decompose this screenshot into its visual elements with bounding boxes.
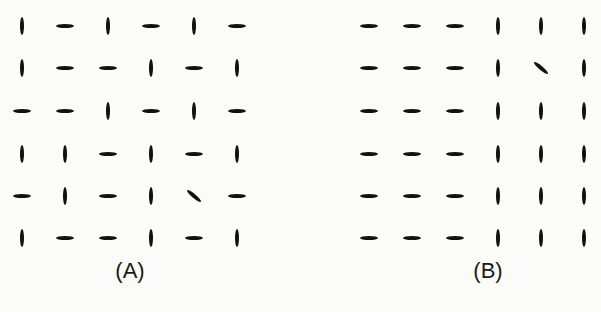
vertical-bar [496, 229, 500, 247]
horizontal-bar [99, 236, 117, 240]
vertical-bar [539, 229, 543, 247]
panel-b-label: (B) [458, 258, 518, 284]
horizontal-bar [99, 152, 117, 156]
vertical-bar [149, 229, 153, 247]
vertical-bar [582, 59, 586, 77]
vertical-bar [539, 187, 543, 205]
horizontal-bar [403, 236, 421, 240]
horizontal-bar [228, 109, 246, 113]
horizontal-bar [99, 194, 117, 198]
vertical-bar [20, 59, 24, 77]
vertical-bar [539, 145, 543, 163]
vertical-bar [496, 145, 500, 163]
vertical-bar [149, 145, 153, 163]
horizontal-bar [403, 66, 421, 70]
horizontal-bar [56, 236, 74, 240]
vertical-bar [539, 102, 543, 120]
vertical-bar [496, 102, 500, 120]
vertical-bar [20, 145, 24, 163]
vertical-bar [192, 17, 196, 35]
horizontal-bar [360, 236, 378, 240]
vertical-bar [106, 102, 110, 120]
horizontal-bar [185, 236, 203, 240]
horizontal-bar [360, 109, 378, 113]
vertical-bar [582, 145, 586, 163]
horizontal-bar [446, 109, 464, 113]
horizontal-bar [185, 66, 203, 70]
horizontal-bar [56, 66, 74, 70]
horizontal-bar [99, 66, 117, 70]
horizontal-bar [446, 24, 464, 28]
horizontal-bar [360, 152, 378, 156]
panel-a-label: (A) [100, 258, 160, 284]
horizontal-bar [403, 24, 421, 28]
vertical-bar [149, 187, 153, 205]
horizontal-bar [403, 109, 421, 113]
vertical-bar [496, 59, 500, 77]
vertical-bar [235, 145, 239, 163]
horizontal-bar [360, 66, 378, 70]
horizontal-bar [446, 236, 464, 240]
horizontal-bar [56, 109, 74, 113]
vertical-bar [582, 17, 586, 35]
vertical-bar [63, 187, 67, 205]
vertical-bar [20, 229, 24, 247]
horizontal-bar [56, 24, 74, 28]
vertical-bar [20, 17, 24, 35]
panel-a: (A) [0, 0, 300, 312]
horizontal-bar [228, 24, 246, 28]
vertical-bar [496, 17, 500, 35]
horizontal-bar [446, 194, 464, 198]
horizontal-bar [142, 24, 160, 28]
vertical-bar [582, 229, 586, 247]
vertical-bar [192, 102, 196, 120]
diagonal-bar-target [186, 189, 202, 204]
horizontal-bar [403, 152, 421, 156]
vertical-bar [149, 59, 153, 77]
horizontal-bar [360, 194, 378, 198]
vertical-bar [582, 102, 586, 120]
vertical-bar [582, 187, 586, 205]
horizontal-bar [360, 24, 378, 28]
horizontal-bar [13, 109, 31, 113]
vertical-bar [106, 17, 110, 35]
diagonal-bar-target [533, 61, 549, 76]
horizontal-bar [142, 109, 160, 113]
vertical-bar [235, 59, 239, 77]
horizontal-bar [228, 194, 246, 198]
vertical-bar [539, 17, 543, 35]
vertical-bar [63, 145, 67, 163]
horizontal-bar [446, 66, 464, 70]
horizontal-bar [13, 194, 31, 198]
vertical-bar [235, 229, 239, 247]
horizontal-bar [185, 152, 203, 156]
panel-b: (B) [300, 0, 600, 312]
horizontal-bar [446, 152, 464, 156]
horizontal-bar [403, 194, 421, 198]
vertical-bar [496, 187, 500, 205]
